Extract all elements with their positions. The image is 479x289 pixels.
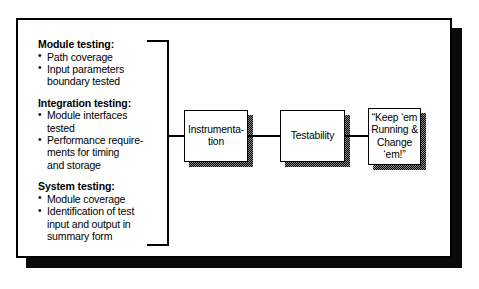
keep-em-running-box-label: “Keep ‘em Running & Change ‘em!” (369, 112, 420, 161)
bracket-vertical (167, 40, 169, 246)
box-line: Instrumenta- (188, 124, 244, 135)
group-heading-module-testing: Module testing: (38, 38, 156, 51)
bullet-item: Identification of test input and output … (38, 205, 156, 242)
connector-instrumentation-to-testability (247, 135, 281, 137)
bullet-line: tested (47, 122, 75, 134)
group-module-testing: Module testing: Path coverage Input para… (38, 38, 156, 88)
bracket-bottom-arm (147, 244, 168, 246)
group-system-testing: System testing: Module coverage Identifi… (38, 180, 156, 242)
group-heading-system-testing: System testing: (38, 180, 156, 193)
bullet-line: Input parameters (47, 63, 124, 75)
connector-testability-to-keep-em (344, 135, 369, 137)
bullet-item: Performance require- ments for timing an… (38, 134, 156, 171)
bullet-line: Path coverage (47, 51, 113, 63)
bullet-line: input and output in (47, 218, 131, 230)
bullet-list-system-testing: Module coverage Identification of test i… (38, 193, 156, 243)
bullet-line: boundary tested (47, 75, 120, 87)
testability-box[interactable]: Testability (280, 110, 345, 162)
bullet-item: Module interfaces tested (38, 109, 156, 134)
box-line: Change (377, 137, 412, 148)
keep-em-running-box[interactable]: “Keep ‘em Running & Change ‘em!” (368, 108, 421, 165)
box-line: tion (208, 136, 224, 147)
box-line: ‘em!” (383, 149, 405, 160)
bullet-line: Module interfaces (47, 109, 127, 121)
bullet-line: ments for timing (47, 146, 119, 158)
testing-groups-bracket (147, 40, 169, 246)
box-line: Testability (291, 130, 335, 141)
group-heading-integration-testing: Integration testing: (38, 97, 156, 110)
bullet-item: Path coverage (38, 51, 156, 63)
connector-bracket-to-instrumentation (167, 135, 185, 137)
bullet-line: Identification of test (47, 205, 134, 217)
diagram-canvas: Module testing: Path coverage Input para… (0, 0, 479, 289)
bullet-line: Module coverage (47, 193, 125, 205)
testing-levels-text-column: Module testing: Path coverage Input para… (38, 38, 156, 242)
group-integration-testing: Integration testing: Module interfaces t… (38, 97, 156, 172)
bullet-list-integration-testing: Module interfaces tested Performance req… (38, 109, 156, 171)
box-line: “Keep ‘em (372, 112, 418, 123)
bracket-top-arm (147, 40, 168, 42)
box-line: Running & (371, 124, 418, 135)
bullet-line: summary form (47, 230, 112, 242)
bullet-line: Performance require- (47, 134, 143, 146)
instrumentation-box[interactable]: Instrumenta- tion (184, 110, 248, 162)
instrumentation-box-label: Instrumenta- tion (188, 124, 244, 148)
testability-box-label: Testability (291, 130, 335, 142)
bullet-item: Input parameters boundary tested (38, 63, 156, 88)
bullet-list-module-testing: Path coverage Input parameters boundary … (38, 51, 156, 88)
bullet-item: Module coverage (38, 193, 156, 205)
bullet-line: and storage (47, 159, 101, 171)
